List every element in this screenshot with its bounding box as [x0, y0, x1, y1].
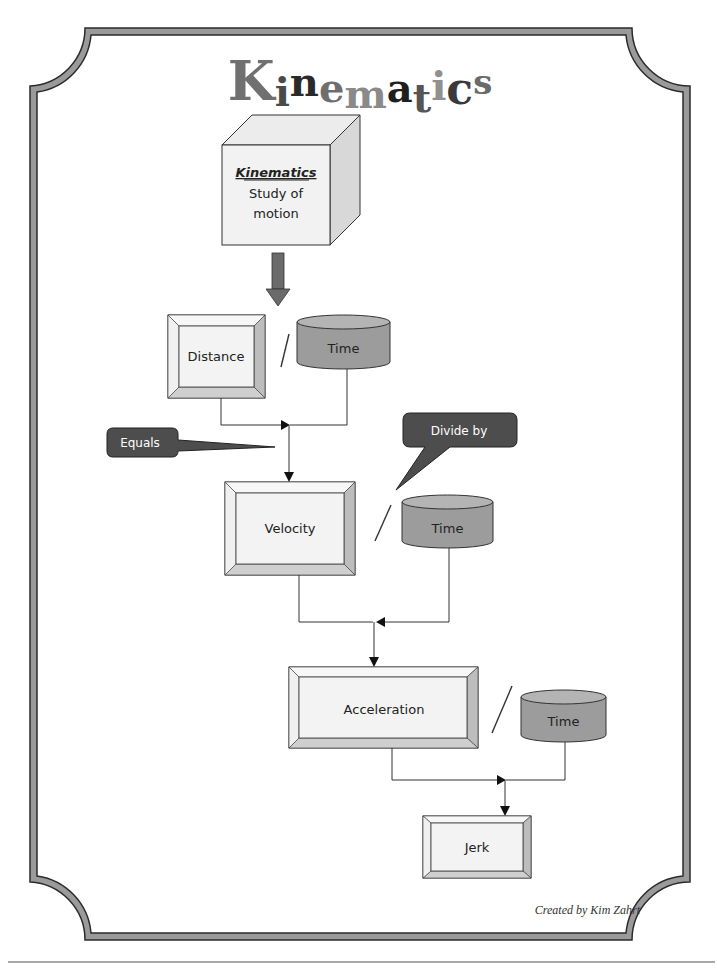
time-node-2: Time — [402, 495, 493, 548]
jerk-label: Jerk — [464, 840, 490, 855]
acceleration-node: Acceleration — [289, 667, 478, 748]
cube-line1: Study of — [249, 186, 304, 201]
velocity-node: Velocity — [225, 482, 355, 575]
equals-label: Equals — [120, 436, 160, 450]
title-letter: s — [473, 62, 492, 102]
time-3-label: Time — [547, 714, 580, 729]
title-letter: m — [344, 70, 386, 117]
title-letter: i — [275, 68, 290, 115]
kinematics-cube: Kinematics Study of motion — [222, 115, 360, 245]
jerk-node: Jerk — [423, 816, 531, 878]
velocity-label: Velocity — [265, 521, 316, 536]
divide-by-label: Divide by — [431, 424, 488, 438]
title-letter: e — [319, 64, 344, 111]
title-letter: n — [290, 58, 319, 105]
cube-heading: Kinematics — [235, 165, 316, 180]
title-letter: i — [431, 62, 446, 109]
distance-label: Distance — [188, 349, 245, 364]
time-node-1: Time — [297, 315, 390, 369]
cube-line2: motion — [253, 206, 299, 221]
title-letter: c — [446, 63, 473, 114]
distance-node: Distance — [168, 315, 265, 398]
time-1-label: Time — [327, 341, 360, 356]
title-letter: t — [413, 74, 432, 121]
time-node-3: Time — [521, 690, 606, 742]
kinematics-diagram: Kinematics Kinematics Study of motion Di… — [0, 0, 717, 968]
credit-text: Created by Kim Zahrt — [535, 903, 641, 917]
time-2-label: Time — [431, 521, 464, 536]
title-letter: a — [387, 64, 413, 111]
title-letter: K — [228, 49, 277, 113]
acceleration-label: Acceleration — [344, 702, 425, 717]
